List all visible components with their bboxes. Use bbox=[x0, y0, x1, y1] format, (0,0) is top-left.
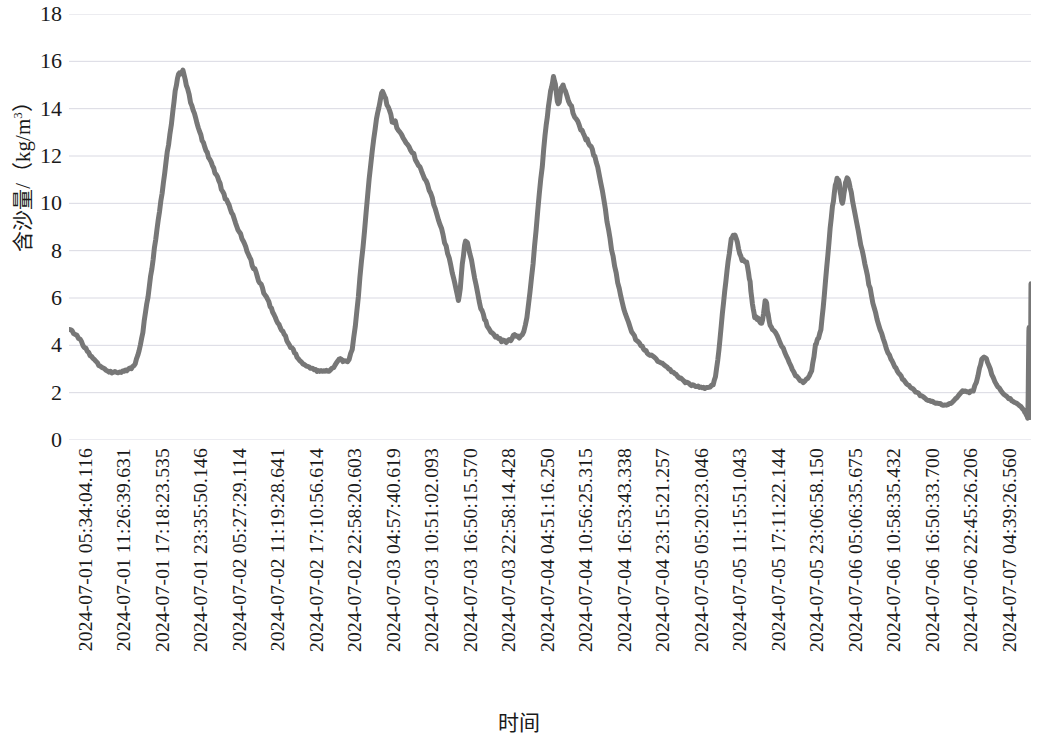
sediment-concentration-chart: 含沙量/（kg/m3） 181614121086420 2024-07-01 0… bbox=[0, 0, 1037, 747]
x-tick-label: 2024-07-02 17:10:56.614 bbox=[307, 448, 327, 652]
y-tick-label: 10 bbox=[0, 192, 62, 214]
y-tick-label: 0 bbox=[0, 429, 62, 451]
y-tick-label: 18 bbox=[0, 3, 62, 25]
x-tick-label: 2024-07-04 04:51:16.250 bbox=[538, 448, 558, 652]
x-tick-label: 2024-07-07 04:39:26.560 bbox=[1000, 448, 1020, 652]
plot-svg bbox=[69, 14, 1031, 440]
x-tick-label: 2024-07-03 22:58:14.428 bbox=[499, 448, 519, 652]
x-tick-label: 2024-07-01 11:26:39.631 bbox=[114, 448, 134, 651]
x-tick-label: 2024-07-03 16:50:15.570 bbox=[461, 448, 481, 652]
x-tick-label: 2024-07-05 23:06:58.150 bbox=[807, 448, 827, 652]
x-tick-label: 2024-07-01 05:34:04.116 bbox=[76, 448, 96, 651]
x-axis-ticks: 2024-07-01 05:34:04.1162024-07-01 11:26:… bbox=[69, 440, 1031, 705]
x-tick-label: 2024-07-03 10:51:02.093 bbox=[422, 448, 442, 652]
y-axis-ticks: 181614121086420 bbox=[0, 0, 62, 460]
y-tick-label: 12 bbox=[0, 145, 62, 167]
x-tick-label: 2024-07-06 05:06:35.675 bbox=[846, 448, 866, 652]
x-tick-label: 2024-07-06 10:58:35.432 bbox=[884, 448, 904, 652]
y-tick-label: 16 bbox=[0, 50, 62, 72]
x-tick-label: 2024-07-02 05:27:29.114 bbox=[230, 448, 250, 651]
data-series-line bbox=[69, 70, 1031, 418]
y-tick-label: 2 bbox=[0, 382, 62, 404]
y-tick-label: 6 bbox=[0, 287, 62, 309]
x-tick-label: 2024-07-04 16:53:43.338 bbox=[615, 448, 635, 652]
x-axis-title: 时间 bbox=[0, 706, 1037, 736]
plot-area bbox=[69, 14, 1031, 440]
y-tick-label: 4 bbox=[0, 334, 62, 356]
x-tick-label: 2024-07-02 11:19:28.641 bbox=[268, 448, 288, 651]
gridlines bbox=[69, 14, 1031, 440]
x-tick-label: 2024-07-04 10:56:25.315 bbox=[576, 448, 596, 652]
x-tick-label: 2024-07-01 17:18:23.535 bbox=[153, 448, 173, 652]
x-tick-label: 2024-07-05 11:15:51.043 bbox=[730, 448, 750, 651]
x-tick-label: 2024-07-02 22:58:20.603 bbox=[345, 448, 365, 652]
x-tick-label: 2024-07-04 23:15:21.257 bbox=[653, 448, 673, 652]
x-tick-label: 2024-07-01 23:35:50.146 bbox=[191, 448, 211, 652]
x-tick-label: 2024-07-06 16:50:33.700 bbox=[923, 448, 943, 652]
y-tick-label: 14 bbox=[0, 98, 62, 120]
x-tick-label: 2024-07-06 22:45:26.206 bbox=[961, 448, 981, 652]
x-tick-label: 2024-07-05 17:11:22.144 bbox=[769, 448, 789, 651]
x-tick-label: 2024-07-05 05:20:23.046 bbox=[692, 448, 712, 652]
x-tick-label: 2024-07-03 04:57:40.619 bbox=[384, 448, 404, 652]
y-tick-label: 8 bbox=[0, 240, 62, 262]
